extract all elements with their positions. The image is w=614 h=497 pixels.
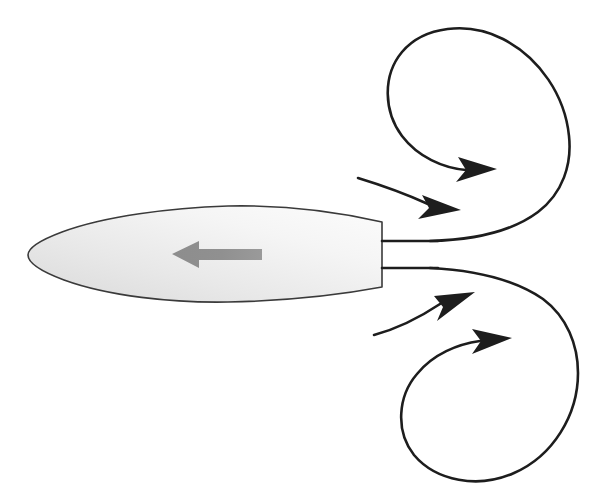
vortex-wake-diagram: Vortex wake behind a streamlined body le… [0, 0, 614, 497]
upper-vortex-group [388, 28, 570, 241]
lower-freestream-arrow-group [374, 292, 475, 335]
diagram-canvas [0, 0, 614, 497]
lower-vortex-spiral [401, 268, 578, 481]
lower-vortex-group [401, 268, 578, 481]
lower-freestream-arrowhead [434, 292, 475, 321]
upper-freestream-arrow-group [358, 178, 461, 219]
upper-freestream-arrow-curve [358, 178, 428, 204]
lower-freestream-arrow-curve [374, 304, 440, 335]
upper-freestream-arrowhead [418, 195, 461, 219]
upper-vortex-spiral [388, 28, 570, 241]
shear-layer-group [382, 241, 438, 268]
